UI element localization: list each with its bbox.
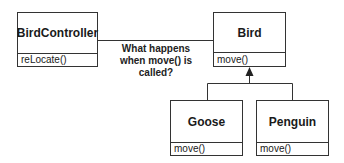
inheritance-arrow-icon [246,67,254,76]
inheritance-connectors [0,0,344,163]
